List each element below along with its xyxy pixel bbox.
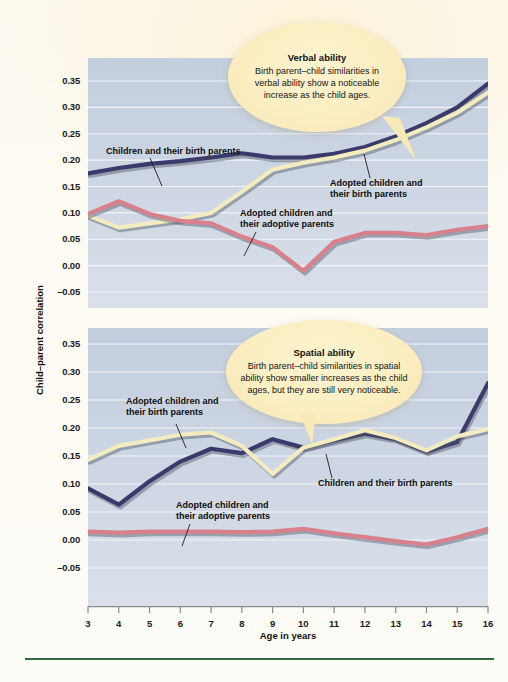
label-spatial-adopted-adoptive-line2: their adoptive parents bbox=[176, 511, 270, 521]
label-spatial-adopted-adoptive-line1: Adopted children and bbox=[176, 500, 269, 510]
x-tick-label: 12 bbox=[356, 618, 374, 629]
x-tick-label: 9 bbox=[264, 618, 282, 629]
y-tick-label: 0.15 bbox=[46, 450, 80, 461]
chart-spatial-ability: –0.050.000.050.100.150.200.250.300.35 34… bbox=[0, 0, 508, 640]
y-tick-label: 0.25 bbox=[46, 394, 80, 405]
x-tick-label: 3 bbox=[79, 618, 97, 629]
x-tick-label: 10 bbox=[294, 618, 312, 629]
x-tick-label: 15 bbox=[448, 618, 466, 629]
x-tick-label: 6 bbox=[171, 618, 189, 629]
x-tick-label: 4 bbox=[110, 618, 128, 629]
y-tick-label: 0.10 bbox=[46, 478, 80, 489]
x-axis-spatial bbox=[88, 606, 488, 618]
y-tick-label: –0.05 bbox=[46, 562, 80, 573]
x-tick-label: 13 bbox=[387, 618, 405, 629]
leader-spatial-children-birth bbox=[322, 452, 346, 480]
x-axis-title: Age in years bbox=[188, 630, 388, 641]
label-spatial-adopted-adoptive: Adopted children and their adoptive pare… bbox=[176, 500, 270, 523]
x-tick-label: 14 bbox=[417, 618, 435, 629]
leader-spatial-adopted-adoptive bbox=[178, 524, 198, 548]
label-spatial-adopted-birth-line2: their birth parents bbox=[126, 407, 203, 417]
x-tick-label: 11 bbox=[325, 618, 343, 629]
label-spatial-adopted-birth-line1: Adopted children and bbox=[126, 396, 219, 406]
leader-spatial-adopted-birth bbox=[172, 424, 196, 450]
y-tick-label: 0.35 bbox=[46, 338, 80, 349]
x-tick-label: 16 bbox=[479, 618, 497, 629]
bottom-rule bbox=[25, 658, 494, 660]
y-tick-label: 0.20 bbox=[46, 422, 80, 433]
label-spatial-adopted-birth: Adopted children and their birth parents bbox=[126, 396, 219, 419]
callout-spatial-title: Spatial ability bbox=[293, 347, 354, 358]
figure-page: Child–parent correlation –0.050.000.050.… bbox=[0, 0, 508, 682]
x-tick-label: 5 bbox=[141, 618, 159, 629]
callout-spatial-body: Birth parent–child similarities in spati… bbox=[240, 361, 408, 397]
x-tick-label: 8 bbox=[233, 618, 251, 629]
y-tick-label: 0.30 bbox=[46, 366, 80, 377]
callout-spatial-tail bbox=[294, 402, 344, 452]
y-tick-label: 0.05 bbox=[46, 506, 80, 517]
x-tick-label: 7 bbox=[202, 618, 220, 629]
y-tick-label: 0.00 bbox=[46, 534, 80, 545]
